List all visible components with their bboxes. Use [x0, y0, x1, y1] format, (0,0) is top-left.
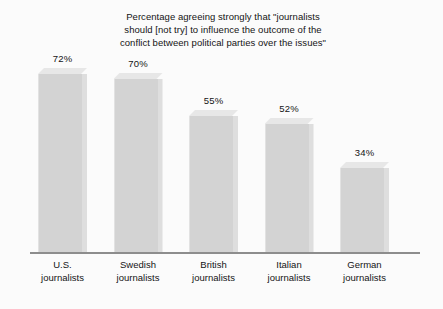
category-label-1: Swedish journalists — [98, 258, 179, 284]
bar-front-face-4 — [340, 168, 384, 252]
bar-2 — [189, 110, 238, 252]
category-label-4: German journalists — [324, 258, 405, 284]
bar-front-face-0 — [38, 74, 82, 252]
bar-3 — [265, 118, 314, 252]
bar-value-4: 34% — [330, 147, 399, 158]
bar-value-2: 55% — [179, 95, 248, 106]
bar-4 — [340, 162, 389, 252]
bar-front-face-3 — [265, 124, 309, 252]
bar-value-1: 70% — [104, 58, 173, 69]
bar-value-3: 52% — [255, 103, 324, 114]
bar-1 — [114, 73, 163, 252]
category-label-3: Italian journalists — [249, 258, 330, 284]
plot-area: 72% U.S. journalists 70% Swedish journal… — [0, 0, 443, 309]
x-axis-line — [30, 252, 420, 254]
category-label-0: U.S. journalists — [22, 258, 103, 284]
bar-front-face-2 — [189, 116, 233, 252]
bar-value-0: 72% — [28, 53, 97, 64]
bar-0 — [38, 68, 87, 252]
chart-figure: Percentage agreeing strongly that "journ… — [0, 0, 443, 309]
bar-front-face-1 — [114, 79, 158, 252]
category-label-2: British journalists — [173, 258, 254, 284]
